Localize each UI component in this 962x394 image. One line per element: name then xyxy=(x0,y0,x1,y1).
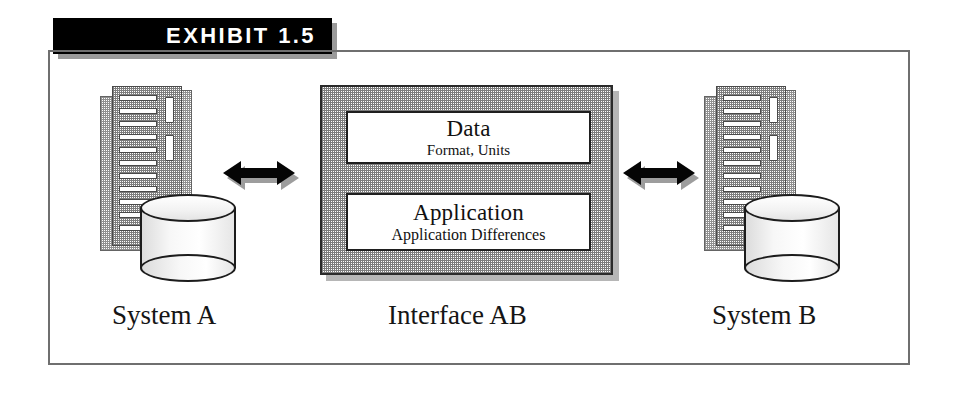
interface-card-application: Application Application Differences xyxy=(346,193,591,251)
server-cabinet-drive-slot-2 xyxy=(165,135,174,161)
left-database-cylinder xyxy=(140,194,236,282)
right-system-graphic xyxy=(700,86,850,286)
interface-card-data-subtitle: Format, Units xyxy=(427,142,510,159)
right-database-cylinder xyxy=(744,194,840,282)
double-headed-arrow-icon xyxy=(223,160,303,196)
exhibit-figure: EXHIBIT 1.5 xyxy=(0,0,962,394)
exhibit-banner: EXHIBIT 1.5 xyxy=(53,18,332,54)
interface-card-data-title: Data xyxy=(446,117,490,141)
interface-box: Data Format, Units Application Applicati… xyxy=(320,85,613,275)
exhibit-banner-label: EXHIBIT 1.5 xyxy=(166,25,332,47)
left-connector-arrow xyxy=(223,160,303,196)
left-system-caption: System A xyxy=(112,300,216,331)
server-cabinet-drive-slot-1 xyxy=(769,97,778,123)
right-connector-arrow xyxy=(623,160,703,196)
server-cabinet-drive-slot-2 xyxy=(769,135,778,161)
interface-card-application-subtitle: Application Differences xyxy=(392,226,546,244)
interface-card-application-title: Application xyxy=(413,201,524,225)
server-cabinet-drive-slot-1 xyxy=(165,97,174,123)
double-headed-arrow-icon xyxy=(623,160,703,196)
interface-caption: Interface AB xyxy=(388,300,527,331)
right-system-caption: System B xyxy=(712,300,816,331)
interface-card-data: Data Format, Units xyxy=(346,111,591,164)
